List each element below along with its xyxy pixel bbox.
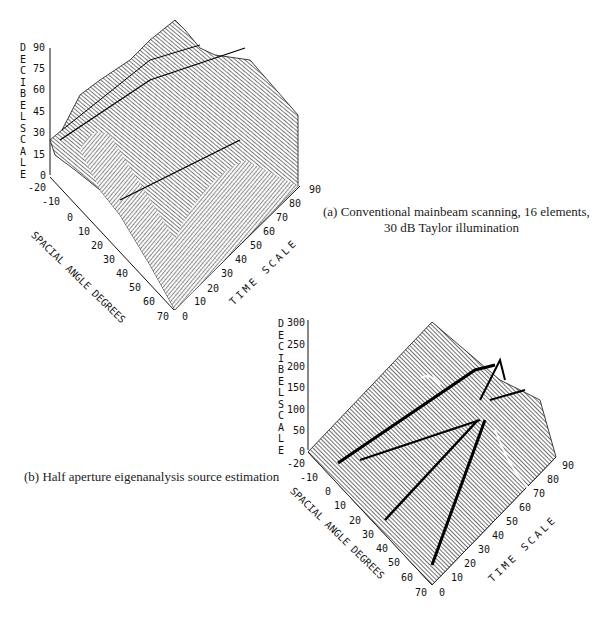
plot-b-y-tick: 0 <box>439 588 445 598</box>
plot-b-z-axis-title: DECIBEL SCALE <box>278 318 286 456</box>
plot-b-x-tick: -20 <box>287 459 305 469</box>
plot-b-z-tick-150: 150 <box>287 383 305 393</box>
plot-b-y-tick: 20 <box>464 559 476 569</box>
plot-b-y-tick: 60 <box>519 503 531 513</box>
plot-b-x-tick: 50 <box>388 558 400 568</box>
plot-b-x-tick: 30 <box>362 530 374 540</box>
plot-b-z-tick-200: 200 <box>287 362 305 372</box>
plot-b-y-tick: 80 <box>547 475 559 485</box>
plot-b-surface <box>0 0 597 623</box>
plot-b-z-tick-100: 100 <box>287 405 305 415</box>
plot-b-x-tick: 20 <box>349 516 361 526</box>
plot-b-x-tick: 60 <box>401 573 413 583</box>
plot-b-y-tick: 10 <box>451 573 463 583</box>
plot-b-z-tick-50: 50 <box>293 426 305 436</box>
plot-b-x-tick: -10 <box>300 473 318 483</box>
plot-b-y-tick: 70 <box>533 489 545 499</box>
plot-b-y-tick: 30 <box>478 545 490 555</box>
plot-b-x-tick: 0 <box>325 487 331 497</box>
plot-b-x-tick: 40 <box>376 544 388 554</box>
caption-b: (b) Half aperture eigenanalysis source e… <box>24 469 279 485</box>
plot-b-z-tick-300: 300 <box>287 318 305 328</box>
plot-b-y-tick: 90 <box>562 461 574 471</box>
plot-b-x-tick: 10 <box>334 501 346 511</box>
plot-b-y-tick: 40 <box>492 531 504 541</box>
plot-b-z-tick-0: 0 <box>299 447 305 457</box>
plot-b-z-tick-250: 250 <box>287 340 305 350</box>
plot-b-x-tick: 70 <box>415 588 427 598</box>
plot-b-y-tick: 50 <box>506 517 518 527</box>
